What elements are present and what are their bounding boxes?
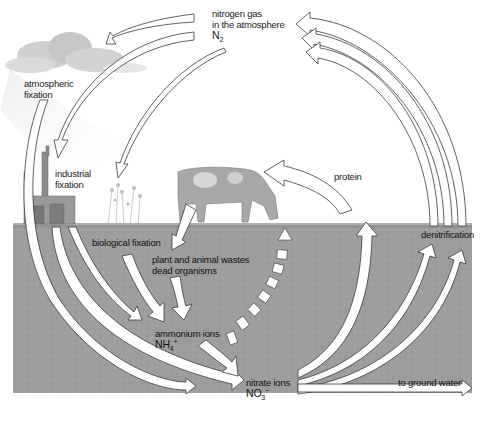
- label-no3: NO3−: [246, 388, 290, 399]
- plants-icon: [108, 183, 142, 225]
- label-nitrogen-gas-line1: nitrogen gas: [212, 8, 285, 19]
- label-nitrogen-gas-line2: in the atmosphere: [212, 19, 285, 30]
- label-biological-fixation: biological fixation: [92, 237, 161, 248]
- label-industrial-line2: fixation: [55, 179, 91, 190]
- label-atmospheric-line1: atmospheric: [24, 78, 74, 89]
- label-n2: N2: [212, 30, 285, 41]
- label-protein: protein: [334, 171, 362, 182]
- label-ammonium: ammonium ions NH4+: [155, 328, 219, 350]
- label-nitrate: nitrate ions NO3−: [246, 377, 290, 399]
- label-atmospheric-fixation: atmospheric fixation: [24, 78, 74, 100]
- label-industrial-line1: industrial: [55, 168, 91, 179]
- label-wastes: plant and animal wastes dead organisms: [152, 254, 249, 276]
- label-wastes-line1: plant and animal wastes: [152, 254, 249, 265]
- diagram-canvas: [0, 0, 484, 421]
- label-industrial-fixation: industrial fixation: [55, 168, 91, 190]
- nitrogen-cycle-diagram: nitrogen gas in the atmosphere N2 atmosp…: [0, 0, 484, 421]
- label-nh4: NH4+: [155, 339, 219, 350]
- label-wastes-line2: dead organisms: [152, 265, 249, 276]
- label-nitrogen-gas: nitrogen gas in the atmosphere N2: [212, 8, 285, 41]
- arrow-to-protein: [264, 160, 352, 214]
- label-denitrification: denitrification: [421, 229, 474, 240]
- label-atmospheric-line2: fixation: [24, 89, 74, 100]
- label-ground-water: to ground water: [398, 377, 461, 388]
